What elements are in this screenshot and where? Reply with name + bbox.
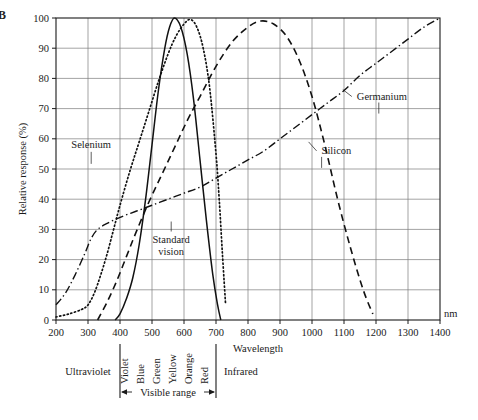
x-tick-label: 300: [80, 327, 96, 338]
visible-color-label-green: Green: [151, 358, 162, 384]
annotation-selenium: Selenium: [71, 139, 111, 150]
y-tick-label: 50: [39, 164, 50, 175]
relative-response-vs-wavelength-chart: 2003004005006007008009001000110012001300…: [0, 0, 478, 420]
visible-range-label: Visible range: [140, 387, 196, 398]
x-tick-label: 500: [144, 327, 160, 338]
annotation-germanium: Germanium: [357, 91, 407, 102]
visible-color-label-orange: Orange: [183, 353, 194, 384]
x-tick-label: 700: [208, 327, 224, 338]
annotation-standard-vision-line1: Standard: [153, 234, 191, 245]
y-tick-label: 40: [39, 194, 50, 205]
annotation-silicon: Silicon: [322, 145, 353, 156]
y-tick-label: 100: [33, 13, 49, 24]
y-axis-title: Relative response (%): [17, 122, 29, 215]
x-axis-tick-labels: 2003004005006007008009001000110012001300…: [48, 327, 450, 338]
band-label-ultraviolet: Ultraviolet: [65, 366, 111, 377]
annotation-leader-silicon: [309, 142, 317, 151]
x-tick-label: 400: [112, 327, 128, 338]
visible-color-label-blue: Blue: [135, 364, 146, 384]
y-tick-label: 0: [44, 315, 49, 326]
x-tick-label: 900: [272, 327, 288, 338]
y-tick-label: 30: [39, 224, 50, 235]
x-tick-label: 1100: [334, 327, 355, 338]
y-tick-label: 80: [39, 73, 50, 84]
x-tick-label: 800: [240, 327, 256, 338]
x-axis-title: Wavelength: [233, 343, 284, 354]
y-tick-label: 10: [39, 284, 50, 295]
spectrum-band-legend: UltravioletInfraredVioletBlueGreenYellow…: [65, 344, 258, 398]
visible-color-label-violet: Violet: [119, 358, 130, 384]
visible-range-arrowhead-right: [209, 389, 215, 395]
x-tick-label: 1200: [366, 327, 387, 338]
y-axis-tick-labels: 0102030405060708090100: [33, 13, 49, 326]
x-tick-label: 600: [176, 327, 192, 338]
y-tick-label: 70: [39, 103, 50, 114]
figure-root: B 20030040050060070080090010001100120013…: [0, 0, 478, 420]
series-annotations: SeleniumStandardvisionSiliconGermanium: [71, 90, 407, 257]
visible-color-label-yellow: Yellow: [167, 354, 178, 384]
y-tick-label: 90: [39, 43, 50, 54]
curve-silicon: [98, 21, 373, 320]
x-axis-unit-label: nm: [444, 308, 457, 319]
x-tick-label: 1400: [430, 327, 451, 338]
x-tick-label: 200: [48, 327, 64, 338]
annotation-standard-vision-line2: vision: [158, 246, 184, 257]
y-tick-label: 20: [39, 254, 50, 265]
axis-ticks: [52, 18, 440, 324]
x-tick-label: 1300: [398, 327, 419, 338]
gridlines: [56, 18, 440, 320]
x-tick-label: 1000: [302, 327, 323, 338]
visible-color-label-red: Red: [199, 366, 210, 384]
visible-range-arrowhead-left: [121, 389, 127, 395]
band-label-infrared: Infrared: [224, 366, 259, 377]
y-tick-label: 60: [39, 133, 50, 144]
